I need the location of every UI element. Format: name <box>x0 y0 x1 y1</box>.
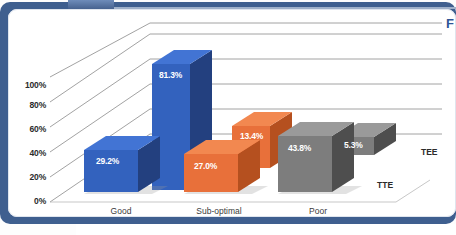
depth-label-tee: TEE <box>421 147 438 157</box>
y-tick-60: 60% <box>6 124 46 134</box>
category-label-poor: Poor <box>283 206 353 216</box>
category-label-suboptimal: Sub-optimal <box>184 206 254 216</box>
depth-axis-edge <box>396 180 430 202</box>
chart-svg <box>0 0 456 235</box>
value-label-good-tee: 81.3% <box>159 70 182 80</box>
value-label-poor-tee: 5.3% <box>344 140 363 150</box>
value-label-good-tte: 29.2% <box>96 156 119 166</box>
slide-root: F <box>0 0 456 235</box>
y-tick-80: 80% <box>6 100 46 110</box>
category-label-good: Good <box>86 206 156 216</box>
y-tick-20: 20% <box>6 172 46 182</box>
chart-3d: 100% 80% 60% 40% 20% 0% Good Sub-optimal… <box>0 0 456 235</box>
value-label-subopt-tte: 27.0% <box>194 161 217 171</box>
y-tick-0: 0% <box>6 196 46 206</box>
value-label-subopt-tee: 13.4% <box>240 131 263 141</box>
y-tick-40: 40% <box>6 148 46 158</box>
depth-label-tte: TTE <box>377 180 393 190</box>
y-tick-100: 100% <box>6 80 46 90</box>
value-label-poor-tte: 43.8% <box>288 143 311 153</box>
bar-tte-poor <box>278 122 354 192</box>
